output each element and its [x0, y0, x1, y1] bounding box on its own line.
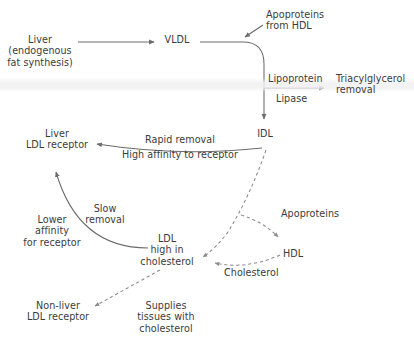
label-lower-affinity-for-receptor: Lower affinity for receptor [23, 214, 80, 248]
node-non-liver-ldl-receptor: Non-liver LDL receptor [27, 300, 89, 323]
label-cholesterol: Cholesterol [224, 267, 279, 278]
label-slow-removal: Slow removal [85, 203, 124, 226]
node-ldl-high-in-cholesterol: LDL high in cholesterol [140, 233, 193, 267]
label-supplies-tissues-with-cholesterol: Supplies tissues with cholesterol [137, 300, 194, 334]
node-idl: IDL [257, 128, 273, 139]
label-lipoprotein: Lipoprotein [268, 73, 323, 84]
label-high-affinity-to-receptor: High affinity to receptor [122, 149, 238, 160]
edge-hdl-to-ldl-cholesterol [215, 255, 280, 265]
node-triacylglycerol-removal: Triacylglycerol removal [336, 73, 405, 96]
node-liver-endogenous-fat-synthesis: Liver (endogenous fat synthesis) [7, 34, 73, 68]
edge-apoproteins-from-hdl [245, 25, 263, 37]
node-vldl: VLDL [165, 34, 190, 45]
label-rapid-removal: Rapid removal [145, 134, 215, 145]
label-apoproteins-from-hdl: Apoproteins from HDL [266, 9, 324, 32]
label-apoproteins: Apoproteins [281, 208, 339, 219]
edge-idl-to-hdl [241, 215, 278, 237]
edge-vldl-to-idl [200, 42, 264, 119]
label-lipase: Lipase [276, 93, 307, 104]
lipoprotein-metabolism-diagram: Liver (endogenous fat synthesis) VLDL Ap… [0, 0, 414, 351]
node-liver-ldl-receptor: Liver LDL receptor [26, 128, 88, 151]
edge-idl-to-ldl [203, 150, 266, 257]
node-hdl: HDL [283, 248, 303, 259]
